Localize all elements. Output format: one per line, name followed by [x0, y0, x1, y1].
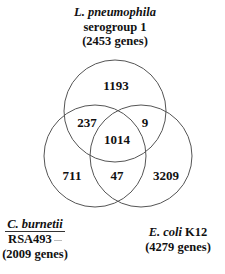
venn-diagram: L. pneumophila serogroup 1 (2453 genes) …: [0, 0, 225, 274]
set-name-c-burnetii-underlined: C. burnetii: [5, 218, 65, 232]
region-lp-ec: 9: [142, 115, 149, 131]
set-name-c-burnetii: C. burnetii: [7, 217, 63, 231]
set-subtitle-c-burnetii: RSA493: [8, 232, 52, 246]
region-lp-cb: 237: [77, 115, 97, 131]
set-subtitle-l-pneumophila: serogroup 1: [55, 20, 175, 35]
label-e-coli: E. coli K12 (4279 genes): [137, 225, 219, 254]
set-total-c-burnetii: (2009 genes): [0, 247, 70, 262]
set-name-l-pneumophila: L. pneumophila: [74, 5, 156, 19]
region-cb-ec: 47: [111, 168, 124, 184]
region-all-three: 1014: [104, 132, 130, 148]
set-subtitle-e-coli: K12: [182, 225, 207, 239]
region-cb-only: 711: [63, 168, 82, 184]
set-total-l-pneumophila: (2453 genes): [55, 34, 175, 49]
set-name-e-coli: E. coli: [149, 225, 182, 239]
label-c-burnetii: C. burnetii RSA493 (2009 genes): [0, 217, 70, 261]
region-lp-only: 1193: [103, 78, 128, 94]
set-total-e-coli: (4279 genes): [137, 240, 219, 255]
dash-mark: [54, 240, 62, 241]
region-ec-only: 3209: [153, 168, 179, 184]
label-l-pneumophila: L. pneumophila serogroup 1 (2453 genes): [55, 5, 175, 49]
